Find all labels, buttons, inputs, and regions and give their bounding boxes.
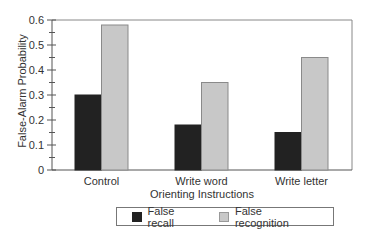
legend-swatch-light [219, 212, 229, 222]
legend-item-false-recognition: False recognition [219, 205, 315, 229]
bar-false-recall [75, 95, 102, 170]
y-tick-label: 0.1 [29, 139, 44, 151]
bar-false-recognition [202, 83, 229, 171]
x-axis-label: Orienting Instructions [150, 188, 254, 200]
legend: False recall False recognition [116, 207, 334, 226]
y-axis-label: False-Alarm Probability [16, 16, 30, 166]
x-tick-label: Write word [175, 175, 227, 187]
legend-swatch-dark [132, 212, 142, 222]
bar-false-recognition [102, 25, 129, 170]
y-tick-label: 0.6 [29, 14, 44, 26]
x-tick-label: Write letter [275, 175, 328, 187]
bar-false-recall [175, 125, 202, 170]
bar-chart: 00.10.20.30.40.50.6ControlWrite wordWrit… [0, 0, 365, 244]
legend-item-false-recall: False recall [132, 205, 201, 229]
y-tick-label: 0.5 [29, 39, 44, 51]
bar-false-recognition [302, 58, 329, 171]
y-tick-label: 0 [38, 164, 44, 176]
bar-false-recall [275, 133, 302, 171]
legend-label: False recall [148, 205, 202, 229]
x-tick-label: Control [84, 175, 119, 187]
legend-label: False recognition [235, 205, 315, 229]
y-tick-label: 0.4 [29, 64, 44, 76]
y-tick-label: 0.2 [29, 114, 44, 126]
y-tick-label: 0.3 [29, 89, 44, 101]
